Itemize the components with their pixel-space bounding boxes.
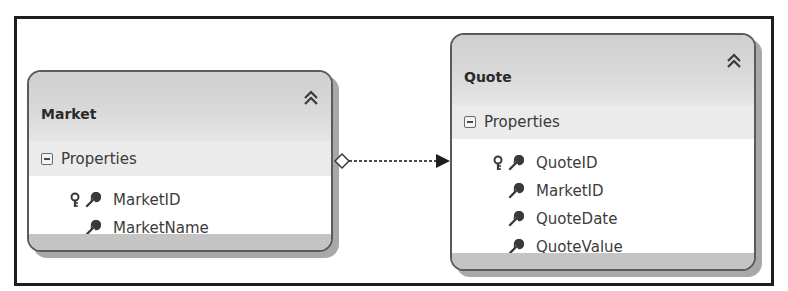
arrow-end-icon (436, 154, 450, 168)
diamond-end-icon (335, 154, 349, 168)
association-connector[interactable] (0, 0, 788, 291)
